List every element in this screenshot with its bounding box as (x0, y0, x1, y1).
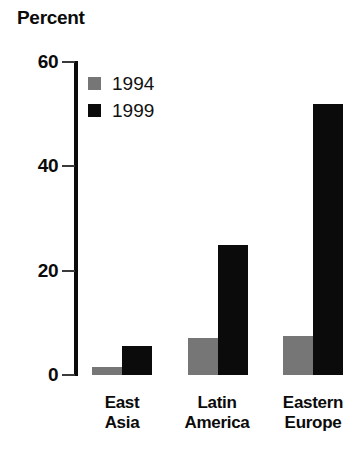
bar-1999-2 (313, 104, 343, 375)
plot-area: 6040200 19941999 (0, 0, 360, 400)
bar-1994-2 (283, 336, 313, 375)
bar-1994-0 (92, 367, 122, 375)
bar-1994-1 (188, 338, 218, 375)
category-label-line: Eastern (253, 393, 360, 413)
category-label-2: EasternEurope (253, 393, 360, 433)
bar-chart: Percent 6040200 19941999 EastAsiaLatinAm… (0, 0, 360, 464)
bars-layer (0, 0, 360, 375)
bar-1999-0 (122, 346, 152, 375)
bar-1999-1 (218, 245, 248, 375)
category-label-line: Europe (253, 413, 360, 433)
category-labels: EastAsiaLatinAmericaEasternEurope (0, 390, 360, 460)
